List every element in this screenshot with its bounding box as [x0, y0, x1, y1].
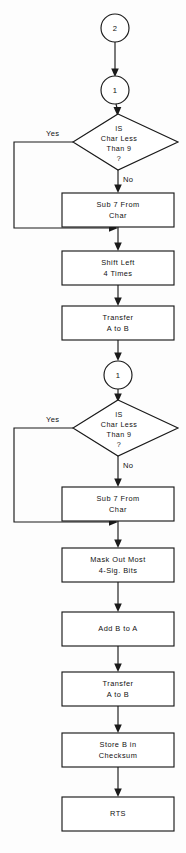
process-store-b-line1: Store B in — [100, 740, 137, 749]
decision-1-line1: IS — [115, 124, 123, 133]
process-sub7-b-line1: Sub 7 From — [96, 494, 139, 503]
process-node-mask-out[interactable]: Mask Out Most 4-Sig. Bits — [62, 548, 174, 582]
arrow-head-icon — [114, 604, 122, 613]
process-node-rts[interactable]: RTS — [62, 797, 174, 831]
process-transfer1-line2: A to B — [107, 324, 129, 333]
edge-transfer1-to-connector1mid — [114, 340, 122, 361]
connector-node-1-top[interactable]: 1 — [101, 76, 129, 104]
decision-node-1[interactable]: IS Char Less Than 9 ? — [73, 114, 178, 170]
arrow-head-icon — [114, 664, 122, 673]
process-shift-left-line2: 4 Times — [103, 269, 132, 278]
edge-shiftleft-to-transfer1 — [114, 285, 122, 306]
arrow-head-icon — [114, 479, 122, 488]
arrow-head-icon — [114, 298, 122, 307]
edge-storeb-to-rts — [114, 767, 122, 797]
process-transfer2-line2: A to B — [107, 690, 129, 699]
process-store-b-line2: Checksum — [99, 751, 138, 760]
decision-1-line2: Char Less — [101, 134, 137, 143]
process-rts-line1: RTS — [110, 809, 126, 818]
arrow-head-icon — [114, 353, 122, 362]
edge-decision1-no-to-sub7a — [114, 170, 122, 193]
decision-2-yes-label: Yes — [46, 415, 59, 424]
process-node-transfer-a-to-b-2[interactable]: Transfer A to B — [62, 672, 174, 706]
edge-connector2-to-connector1 — [111, 42, 119, 77]
decision-1-yes-label: Yes — [46, 129, 59, 138]
edge-transfer2-to-storeb — [114, 706, 122, 733]
flowchart-canvas: 2 1 IS Char Less Than 9 ? Yes — [0, 0, 186, 853]
process-transfer1-line1: Transfer — [103, 313, 134, 322]
process-node-sub7-char-b[interactable]: Sub 7 From Char — [62, 487, 174, 521]
decision-2-line4: ? — [117, 440, 121, 449]
decision-2-line3: Than 9 — [107, 430, 132, 439]
process-node-shift-left[interactable]: Shift Left 4 Times — [62, 251, 174, 285]
connector-circle-1-top-label: 1 — [113, 86, 118, 95]
decision-node-2[interactable]: IS Char Less Than 9 ? — [73, 400, 178, 456]
process-transfer2-line1: Transfer — [103, 679, 134, 688]
decision-2-line1: IS — [115, 410, 123, 419]
connector-node-1-mid[interactable]: 1 — [104, 361, 132, 389]
process-sub7-a-line1: Sub 7 From — [96, 200, 139, 209]
arrow-head-icon — [114, 243, 122, 252]
decision-1-line3: Than 9 — [107, 144, 132, 153]
arrow-head-icon — [114, 725, 122, 734]
process-sub7-b-line2: Char — [109, 505, 127, 514]
decision-2-no-label: No — [123, 461, 133, 470]
edge-sub7b-to-maskout — [114, 521, 122, 548]
edge-maskout-to-addba — [114, 582, 122, 612]
connector-circle-2-label: 2 — [113, 24, 118, 33]
arrow-head-icon — [114, 789, 122, 798]
process-add-b-a-line1: Add B to A — [98, 624, 137, 633]
decision-1-no-label: No — [123, 175, 133, 184]
edge-sub7a-to-shiftleft — [114, 227, 122, 251]
arrow-head-icon — [114, 185, 122, 194]
process-node-sub7-char-a[interactable]: Sub 7 From Char — [62, 193, 174, 227]
flowchart-svg: 2 1 IS Char Less Than 9 ? Yes — [0, 0, 186, 853]
decision-2-line2: Char Less — [101, 420, 137, 429]
decision-1-line4: ? — [117, 154, 121, 163]
process-shift-left-line1: Shift Left — [101, 258, 135, 267]
connector-node-2[interactable]: 2 — [101, 14, 129, 42]
process-sub7-a-line2: Char — [109, 211, 127, 220]
connector-circle-1-mid-label: 1 — [116, 371, 121, 380]
edge-decision2-no-to-sub7b — [114, 456, 122, 487]
process-node-transfer-a-to-b-1[interactable]: Transfer A to B — [62, 306, 174, 340]
process-node-add-b-to-a[interactable]: Add B to A — [62, 612, 174, 646]
process-node-store-b-checksum[interactable]: Store B in Checksum — [62, 733, 174, 767]
edge-addba-to-transfer2 — [114, 646, 122, 672]
arrow-head-icon — [114, 540, 122, 549]
process-mask-out-line1: Mask Out Most — [90, 555, 146, 564]
process-mask-out-line2: 4-Sig. Bits — [99, 566, 138, 575]
